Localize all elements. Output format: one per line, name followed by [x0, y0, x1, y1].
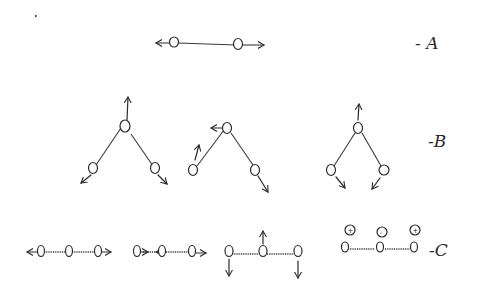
- row-c-mode-3: [225, 231, 302, 278]
- stray-mark: [35, 15, 37, 17]
- atom: [120, 120, 130, 132]
- row-b-mode-3: [327, 104, 390, 189]
- atom: [159, 246, 166, 257]
- atom: [411, 242, 418, 252]
- label-c: -C: [429, 240, 448, 260]
- label-b: -B: [428, 131, 446, 151]
- atom: [251, 165, 260, 176]
- atom: [189, 165, 198, 176]
- atom: [327, 165, 336, 176]
- atom: [66, 246, 73, 257]
- atom: [134, 246, 141, 257]
- atom: [342, 242, 349, 252]
- sign-text: +: [413, 227, 419, 235]
- atom: [234, 39, 243, 50]
- atom: [170, 37, 179, 47]
- row-c-mode-1: [27, 246, 111, 257]
- atom: [38, 246, 45, 257]
- atom: [151, 163, 160, 174]
- sign-text: +: [348, 227, 354, 235]
- atom: [189, 246, 196, 257]
- atom: [354, 123, 363, 134]
- row-c-mode-2: [134, 246, 207, 257]
- row-b-mode-2: [189, 123, 269, 193]
- label-a: - A: [415, 33, 438, 53]
- atom: [377, 242, 384, 252]
- row-c-mode-4: + - +: [342, 225, 421, 252]
- row-b-mode-1: [81, 97, 167, 184]
- atom: [223, 123, 232, 134]
- atom: [294, 246, 302, 257]
- atom: [259, 246, 267, 257]
- atom: [89, 163, 98, 174]
- vibration-modes-diagram: + - +: [0, 0, 480, 296]
- atom: [225, 246, 233, 257]
- atom: [95, 246, 102, 257]
- atom: [379, 165, 389, 175]
- row-a-diatomic-stretch: [156, 37, 264, 50]
